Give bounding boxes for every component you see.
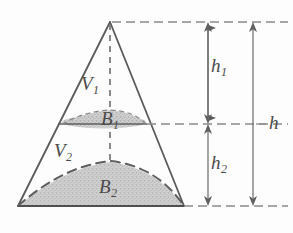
label-h-base: h — [269, 112, 279, 133]
label-h: h — [269, 113, 279, 135]
label-v1: V1 — [81, 74, 99, 96]
label-v2: V2 — [54, 141, 72, 163]
label-v1-subscript: 1 — [93, 83, 99, 97]
label-h2: h2 — [211, 153, 227, 175]
label-h1: h1 — [211, 56, 227, 78]
label-v1-base: V — [81, 73, 93, 94]
label-b2: B2 — [99, 177, 117, 199]
label-b1: B1 — [101, 109, 119, 131]
label-b2-subscript: 2 — [111, 186, 117, 200]
label-b2-base: B — [99, 176, 111, 197]
label-v2-base: V — [54, 140, 66, 161]
geometry-figure: V1 B1 V2 B2 h1 h2 h — [0, 0, 293, 233]
figure-canvas — [0, 0, 293, 233]
label-v2-subscript: 2 — [66, 150, 72, 164]
label-h1-base: h — [211, 55, 221, 76]
dimension-arrow-h — [249, 22, 257, 206]
label-h2-base: h — [211, 152, 221, 173]
label-h1-subscript: 1 — [221, 65, 227, 79]
label-b1-subscript: 1 — [113, 118, 119, 132]
label-h2-subscript: 2 — [221, 162, 227, 176]
label-b1-base: B — [101, 108, 113, 129]
